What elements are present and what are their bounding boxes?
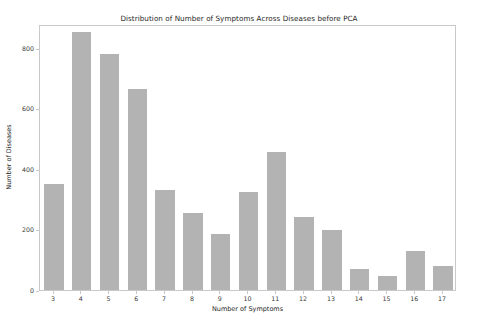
bar — [100, 54, 119, 290]
x-tick-mark — [386, 291, 387, 294]
bar — [155, 190, 174, 290]
x-tick-label: 4 — [71, 295, 91, 302]
x-tick-label: 6 — [126, 295, 146, 302]
y-tick-label: 600 — [22, 105, 34, 112]
x-tick-label: 9 — [210, 295, 230, 302]
x-tick-mark — [108, 291, 109, 294]
x-tick-mark — [192, 291, 193, 294]
y-axis: Number of Diseases 0200400600800 — [0, 25, 39, 291]
x-tick-mark — [303, 291, 304, 294]
x-tick-label: 16 — [404, 295, 424, 302]
x-tick-label: 15 — [377, 295, 397, 302]
chart-title: Distribution of Number of Symptoms Acros… — [0, 14, 478, 23]
y-tick-label: 400 — [22, 166, 34, 173]
bar — [350, 269, 369, 290]
x-tick-label: 3 — [43, 295, 63, 302]
bar — [378, 276, 397, 290]
bar — [239, 192, 258, 290]
bar — [128, 89, 147, 290]
bar — [44, 184, 63, 290]
plot-area — [39, 25, 456, 291]
x-tick-mark — [331, 291, 332, 294]
x-tick-mark — [358, 291, 359, 294]
bar — [322, 230, 341, 290]
bar — [183, 213, 202, 290]
x-tick-label: 14 — [349, 295, 369, 302]
bar — [433, 266, 452, 290]
bar — [294, 217, 313, 290]
x-axis-label: Number of Symptoms — [39, 305, 456, 313]
y-axis-label: Number of Diseases — [5, 97, 13, 217]
bar — [267, 152, 286, 290]
x-tick-label: 17 — [432, 295, 452, 302]
y-tick-label: 800 — [22, 45, 34, 52]
x-tick-mark — [219, 291, 220, 294]
bar — [406, 251, 425, 290]
x-tick-label: 13 — [321, 295, 341, 302]
x-tick-mark — [136, 291, 137, 294]
x-tick-mark — [164, 291, 165, 294]
x-tick-mark — [53, 291, 54, 294]
x-tick-mark — [414, 291, 415, 294]
x-tick-label: 10 — [238, 295, 258, 302]
x-tick-mark — [80, 291, 81, 294]
bar — [211, 234, 230, 290]
x-tick-label: 11 — [265, 295, 285, 302]
bar — [72, 32, 91, 290]
x-tick-label: 7 — [154, 295, 174, 302]
y-tick-label: 200 — [22, 226, 34, 233]
x-tick-mark — [442, 291, 443, 294]
x-tick-mark — [275, 291, 276, 294]
bar-series — [40, 26, 455, 290]
y-tick-label: 0 — [30, 287, 34, 294]
x-tick-label: 5 — [99, 295, 119, 302]
x-tick-mark — [247, 291, 248, 294]
chart-figure: Distribution of Number of Symptoms Acros… — [0, 0, 478, 323]
x-tick-label: 12 — [293, 295, 313, 302]
x-tick-label: 8 — [182, 295, 202, 302]
